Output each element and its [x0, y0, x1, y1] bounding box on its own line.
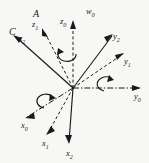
axis-label-z0: z0 — [60, 17, 66, 28]
axis-label-y1-sub: 1 — [128, 62, 131, 68]
axis-label-y0: y0 — [134, 92, 141, 103]
axis-label-y2-sub: 2 — [117, 37, 120, 43]
axis-label-z1-sub: 1 — [35, 25, 38, 31]
rotation-arrowhead-y0 — [107, 75, 114, 82]
axis-label-x1-sub: 1 — [46, 144, 49, 150]
axis-label-x2: x2 — [66, 149, 73, 160]
rotation-arrowhead-x0 — [49, 94, 56, 101]
axis-label-z2: z2 — [19, 34, 25, 45]
rotation-arrowhead-z0 — [57, 48, 64, 55]
axis-label-y1: y1 — [124, 57, 131, 68]
origin-point — [72, 87, 74, 89]
frame-label-A: A — [33, 9, 39, 19]
axis-label-z0-sub: 0 — [63, 22, 66, 28]
axis-line-x0 — [27, 88, 73, 117]
axis-label-w0-sub: 0 — [92, 12, 95, 18]
arrowhead-y1 — [115, 53, 124, 60]
axis-label-z1: z1 — [32, 20, 38, 31]
axis-line-y2 — [73, 36, 112, 88]
axis-label-x2-sub: 2 — [70, 154, 73, 160]
axis-label-z2-sub: 2 — [22, 39, 25, 45]
arrowhead-z1 — [42, 28, 48, 37]
axis-label-x1: x1 — [42, 139, 49, 150]
arrowhead-x0 — [25, 113, 35, 119]
axis-label-y0-sub: 0 — [138, 97, 141, 103]
diagram-canvas — [0, 0, 149, 163]
axis-line-x1 — [48, 88, 73, 133]
arrowhead-x2 — [65, 135, 72, 144]
axis-label-x0: x0 — [21, 121, 28, 132]
axis-label-w0: w0 — [86, 7, 95, 18]
axis-label-y2: y2 — [113, 32, 120, 43]
coordinate-frame-rotation-diagram: A C z1 z2 z0 w0 y2 y1 y0 x0 x1 x2 — [0, 0, 149, 163]
axis-line-y1 — [73, 54, 123, 88]
axis-line-z1 — [44, 31, 73, 88]
frame-label-C: C — [9, 27, 16, 37]
axis-label-x0-sub: 0 — [25, 126, 28, 132]
rotation-arrow-y0 — [97, 77, 109, 91]
arrowhead-z0 — [70, 20, 76, 29]
arrowhead-x1 — [46, 126, 55, 135]
axis-line-x2 — [69, 88, 73, 142]
